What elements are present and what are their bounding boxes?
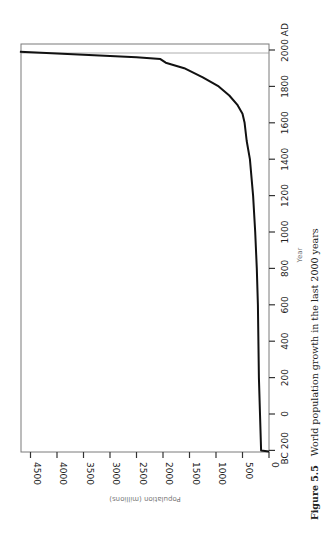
year-tick-label: BC 200 [280, 432, 290, 465]
year-tick-label: 1000 [280, 220, 290, 243]
population-chart: BC 2000200400600800100012001400160018002… [0, 0, 327, 533]
population-curve [20, 52, 269, 452]
year-tick-label: 1600 [280, 111, 290, 134]
population-axis-label: Population (millions) [109, 495, 181, 503]
year-tick-label: 0 [280, 411, 290, 417]
population-tick-label: 0 [270, 462, 280, 468]
year-axis-ticks: BC 2000200400600800100012001400160018002… [269, 23, 290, 464]
plot-frame [21, 44, 269, 452]
population-tick-label: 1000 [217, 462, 227, 485]
population-axis-ticks: 050010001500200025003000350040004500 [31, 452, 281, 485]
figure-caption: Figure 5.5 World population growth in th… [309, 228, 320, 520]
year-axis-label: Year [296, 247, 304, 263]
population-tick-label: 3500 [85, 462, 95, 485]
year-tick-label: 1200 [280, 184, 290, 207]
population-tick-label: 2000 [164, 462, 174, 485]
year-tick-label: 1400 [280, 147, 290, 170]
population-tick-label: 500 [244, 462, 254, 479]
year-tick-label: 1800 [280, 75, 290, 98]
year-tick-label: 400 [280, 332, 290, 349]
population-tick-label: 4500 [32, 462, 42, 485]
figure-label: Figure 5.5 [309, 465, 320, 520]
year-tick-label: 800 [280, 260, 290, 277]
population-tick-label: 4000 [58, 462, 68, 485]
year-tick-label: 600 [280, 296, 290, 313]
population-tick-label: 2500 [138, 462, 148, 485]
year-tick-label: 2000 AD [280, 23, 290, 62]
population-tick-label: 1500 [191, 462, 201, 485]
population-tick-label: 3000 [111, 462, 121, 485]
figure-caption-text: World population growth in the last 2000… [309, 228, 320, 456]
year-tick-label: 200 [280, 369, 290, 386]
